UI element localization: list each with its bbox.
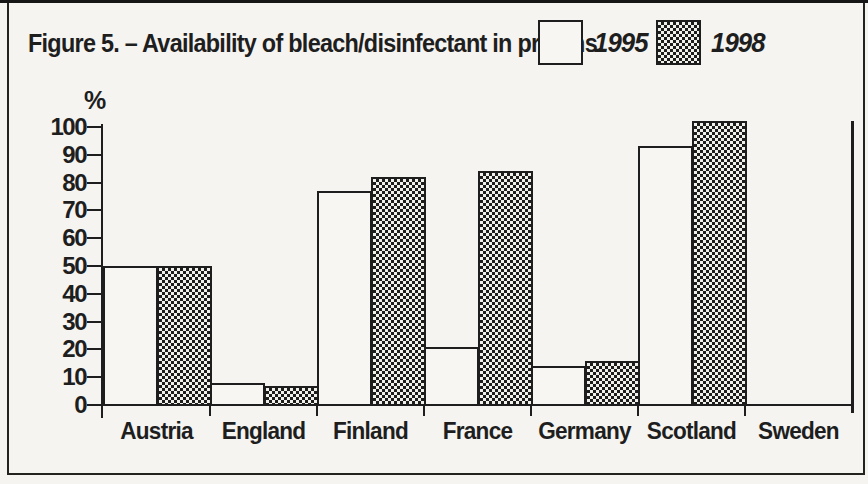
legend-label-1995: 1995 [594,27,648,59]
y-tick-0 [87,404,101,406]
legend-swatch-1998 [656,20,701,65]
y-tick-50 [87,265,101,267]
y-tick-100 [87,126,101,128]
bar-england-1998 [264,386,319,406]
y-tick-label-20: 20 [32,336,86,362]
y-tick-label-50: 50 [32,253,86,279]
y-tick-label-40: 40 [32,281,86,307]
y-tick-60 [87,237,101,239]
x-label-austria: Austria [106,417,207,445]
figure-5-bleach-availability-chart: Figure 5. – Availability of bleach/disin… [0,0,868,484]
bar-germany-1995 [531,366,586,406]
bar-finland-1995 [317,191,372,406]
figure-title: Figure 5. – Availability of bleach/disin… [28,28,603,59]
y-tick-label-90: 90 [32,142,86,168]
legend-swatch-1995 [538,20,583,65]
bar-england-1995 [210,383,265,406]
bar-austria-1995 [103,266,158,406]
y-tick-label-100: 100 [32,114,86,140]
y-tick-20 [87,348,101,350]
y-tick-10 [87,376,101,378]
y-tick-label-30: 30 [32,309,86,335]
y-tick-70 [87,209,101,211]
bar-france-1995 [424,347,479,406]
y-tick-90 [87,154,101,156]
y-tick-80 [87,182,101,184]
bar-germany-1998 [585,361,640,406]
axis-end-line [851,121,854,413]
y-tick-label-10: 10 [32,364,86,390]
bar-scotland-1998 [692,121,747,406]
x-label-scotland: Scotland [641,417,742,445]
y-tick-30 [87,321,101,323]
bar-france-1998 [478,171,533,406]
y-tick-label-0: 0 [32,392,86,418]
x-label-england: England [213,417,314,445]
bar-finland-1998 [371,177,426,406]
bar-scotland-1995 [638,146,693,406]
y-tick-label-60: 60 [32,225,86,251]
x-label-finland: Finland [320,417,421,445]
x-label-sweden: Sweden [748,417,849,445]
y-tick-label-80: 80 [32,170,86,196]
y-axis-unit-label: % [84,86,105,115]
bar-austria-1998 [157,266,212,406]
y-tick-label-70: 70 [32,197,86,223]
y-tick-40 [87,293,101,295]
x-label-germany: Germany [534,417,635,445]
x-label-france: France [427,417,528,445]
legend-label-1998: 1998 [711,27,765,59]
